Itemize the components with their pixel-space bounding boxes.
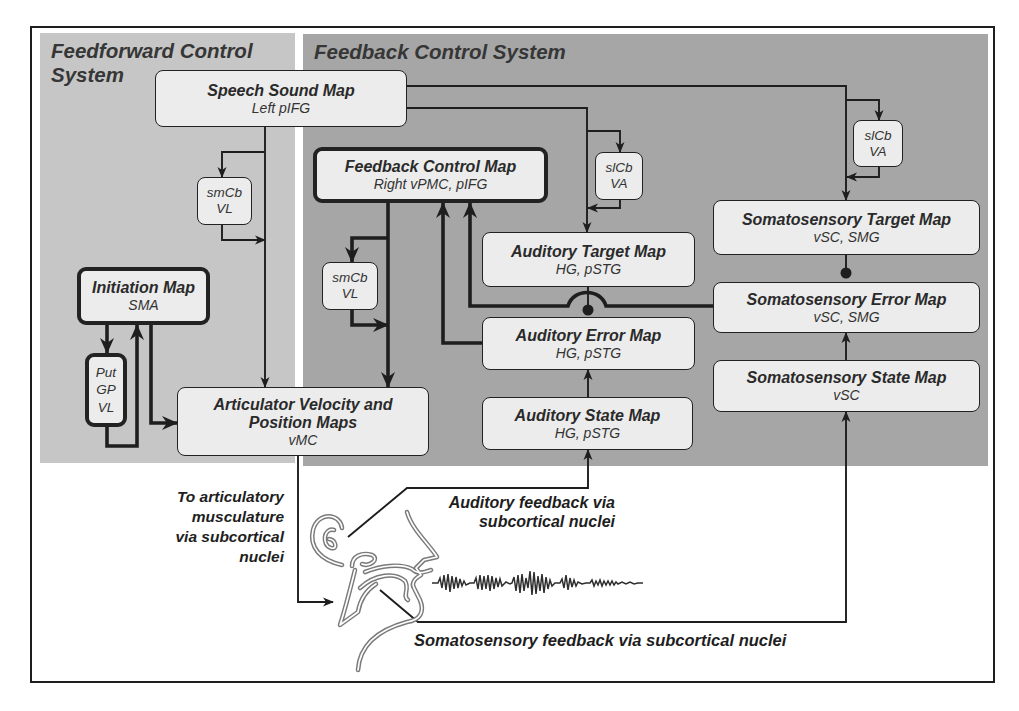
slcb-somatosensory-box: slCb VA (853, 120, 903, 167)
box-line: GP (96, 381, 116, 399)
initiation-to-articulator-arrow (151, 325, 177, 423)
label-line: musculature (175, 507, 284, 527)
smcb-to-fcm-line-arrow (352, 310, 388, 325)
box-line: slCb (864, 128, 891, 144)
box-subtitle: vSC, SMG (813, 229, 879, 245)
auditory-error-map-box: Auditory Error Map HG, pSTG (482, 317, 695, 370)
smcb-feedforward-box: smCb VL (197, 177, 252, 225)
box-title: Somatosensory Error Map (746, 291, 946, 309)
box-subtitle: HG, pSTG (555, 425, 620, 441)
slcb-auditory-box: slCb VA (595, 152, 643, 200)
smcb-feedback-box: smCb VL (322, 262, 378, 310)
box-title: Auditory Target Map (511, 243, 666, 261)
basal-ganglia-loop-box: Put GP VL (85, 353, 127, 427)
box-subtitle: vSC (833, 387, 859, 403)
smcb-to-articulator-arrow (222, 225, 265, 240)
box-line: VA (610, 176, 627, 192)
box-line: VL (216, 201, 233, 217)
dival-model-diagram: Feedforward Control System Feedback Cont… (0, 0, 1019, 711)
box-title: Speech Sound Map (207, 82, 355, 100)
box-line: Put (96, 364, 116, 382)
box-subtitle: vSC, SMG (813, 309, 879, 325)
articulator-maps-box: Articulator Velocity and Position Maps v… (177, 387, 429, 456)
box-line: smCb (332, 270, 367, 286)
slcb-aud-to-target-arrow (588, 200, 620, 208)
label-line: To articulatory (175, 487, 284, 507)
somatosensory-target-map-box: Somatosensory Target Map vSC, SMG (713, 200, 980, 255)
slcb-soma-to-target-arrow (847, 167, 879, 177)
box-subtitle: Right vPMC, pIFG (374, 176, 488, 192)
somatosensory-state-map-box: Somatosensory State Map vSC (713, 360, 980, 412)
speech-to-smcb-arrow (222, 152, 265, 177)
box-title-line1: Articulator Velocity and (214, 396, 393, 414)
box-subtitle: Left pIFG (252, 100, 310, 116)
aud-inhibitory-dot (583, 305, 594, 316)
speech-waveform-icon (432, 571, 643, 595)
feedback-control-map-box: Feedback Control Map Right vPMC, pIFG (313, 147, 548, 203)
box-subtitle: HG, pSTG (556, 345, 621, 361)
label-line: nuclei (175, 547, 284, 567)
fcm-to-smcb-arrow (352, 238, 388, 262)
somatosensory-error-map-box: Somatosensory Error Map vSC, SMG (713, 282, 980, 333)
box-title: Somatosensory State Map (746, 369, 946, 387)
auditory-state-map-box: Auditory State Map HG, pSTG (482, 397, 693, 450)
somatosensory-feedback-label: Somatosensory feedback via subcortical n… (414, 630, 786, 650)
box-line: VA (869, 144, 886, 160)
label-line: Auditory feedback via (449, 493, 615, 512)
speech-sound-map-box: Speech Sound Map Left pIFG (155, 70, 407, 127)
box-title-line2: Position Maps (249, 414, 357, 432)
box-subtitle: SMA (128, 297, 158, 313)
box-subtitle: vMC (289, 432, 318, 448)
box-line: slCb (605, 160, 632, 176)
motor-output-label: To articulatory musculature via subcorti… (175, 487, 284, 567)
box-title: Auditory State Map (515, 407, 661, 425)
box-title: Initiation Map (92, 279, 195, 297)
aud-error-to-fcm-arrow (443, 203, 482, 343)
box-line: smCb (207, 185, 242, 201)
box-title: Feedback Control Map (345, 158, 517, 176)
initiation-map-box: Initiation Map SMA (77, 267, 210, 325)
speech-to-slcb-aud-arrow (587, 131, 620, 152)
box-line: VL (342, 286, 359, 302)
box-subtitle: HG, pSTG (556, 261, 621, 277)
box-title: Somatosensory Target Map (742, 211, 951, 229)
label-line: subcortical nuclei (449, 512, 615, 531)
soma-inhibitory-dot (841, 268, 852, 279)
label-line: via subcortical (175, 527, 284, 547)
auditory-target-map-box: Auditory Target Map HG, pSTG (482, 232, 695, 287)
speech-to-slcb-soma-arrow (846, 100, 879, 120)
box-title: Auditory Error Map (516, 327, 662, 345)
box-line: VL (98, 399, 115, 417)
auditory-feedback-label: Auditory feedback via subcortical nuclei (449, 493, 615, 531)
